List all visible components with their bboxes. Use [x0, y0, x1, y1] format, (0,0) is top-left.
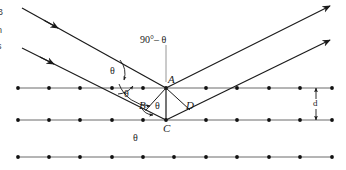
label-theta-lower: θ	[124, 89, 129, 99]
incident-ray-lower-arrow	[40, 57, 54, 64]
lattice-plane-row-1	[16, 86, 334, 90]
bragg-diffraction-figure: B n s .	[0, 0, 346, 170]
label-point-d: D	[186, 100, 194, 111]
incident-ray-upper	[22, 8, 166, 88]
label-complement-angle: 90°– θ	[140, 35, 166, 45]
lattice-plane-row-2	[16, 118, 334, 122]
label-theta-inner: θ	[155, 101, 160, 111]
label-point-b: B	[139, 100, 146, 111]
label-interplanar-spacing: d	[313, 99, 318, 108]
incident-ray-upper-arrow	[44, 20, 58, 28]
label-point-a: A	[168, 74, 175, 85]
lattice-plane-row-3	[16, 155, 334, 159]
diagram-canvas	[0, 0, 346, 170]
diffracted-ray-upper-arrow	[166, 6, 330, 88]
label-point-c: C	[163, 123, 170, 134]
label-theta-upper: θ	[110, 66, 115, 76]
label-theta-bottom: θ	[133, 133, 138, 143]
diffracted-ray-upper	[166, 6, 330, 88]
